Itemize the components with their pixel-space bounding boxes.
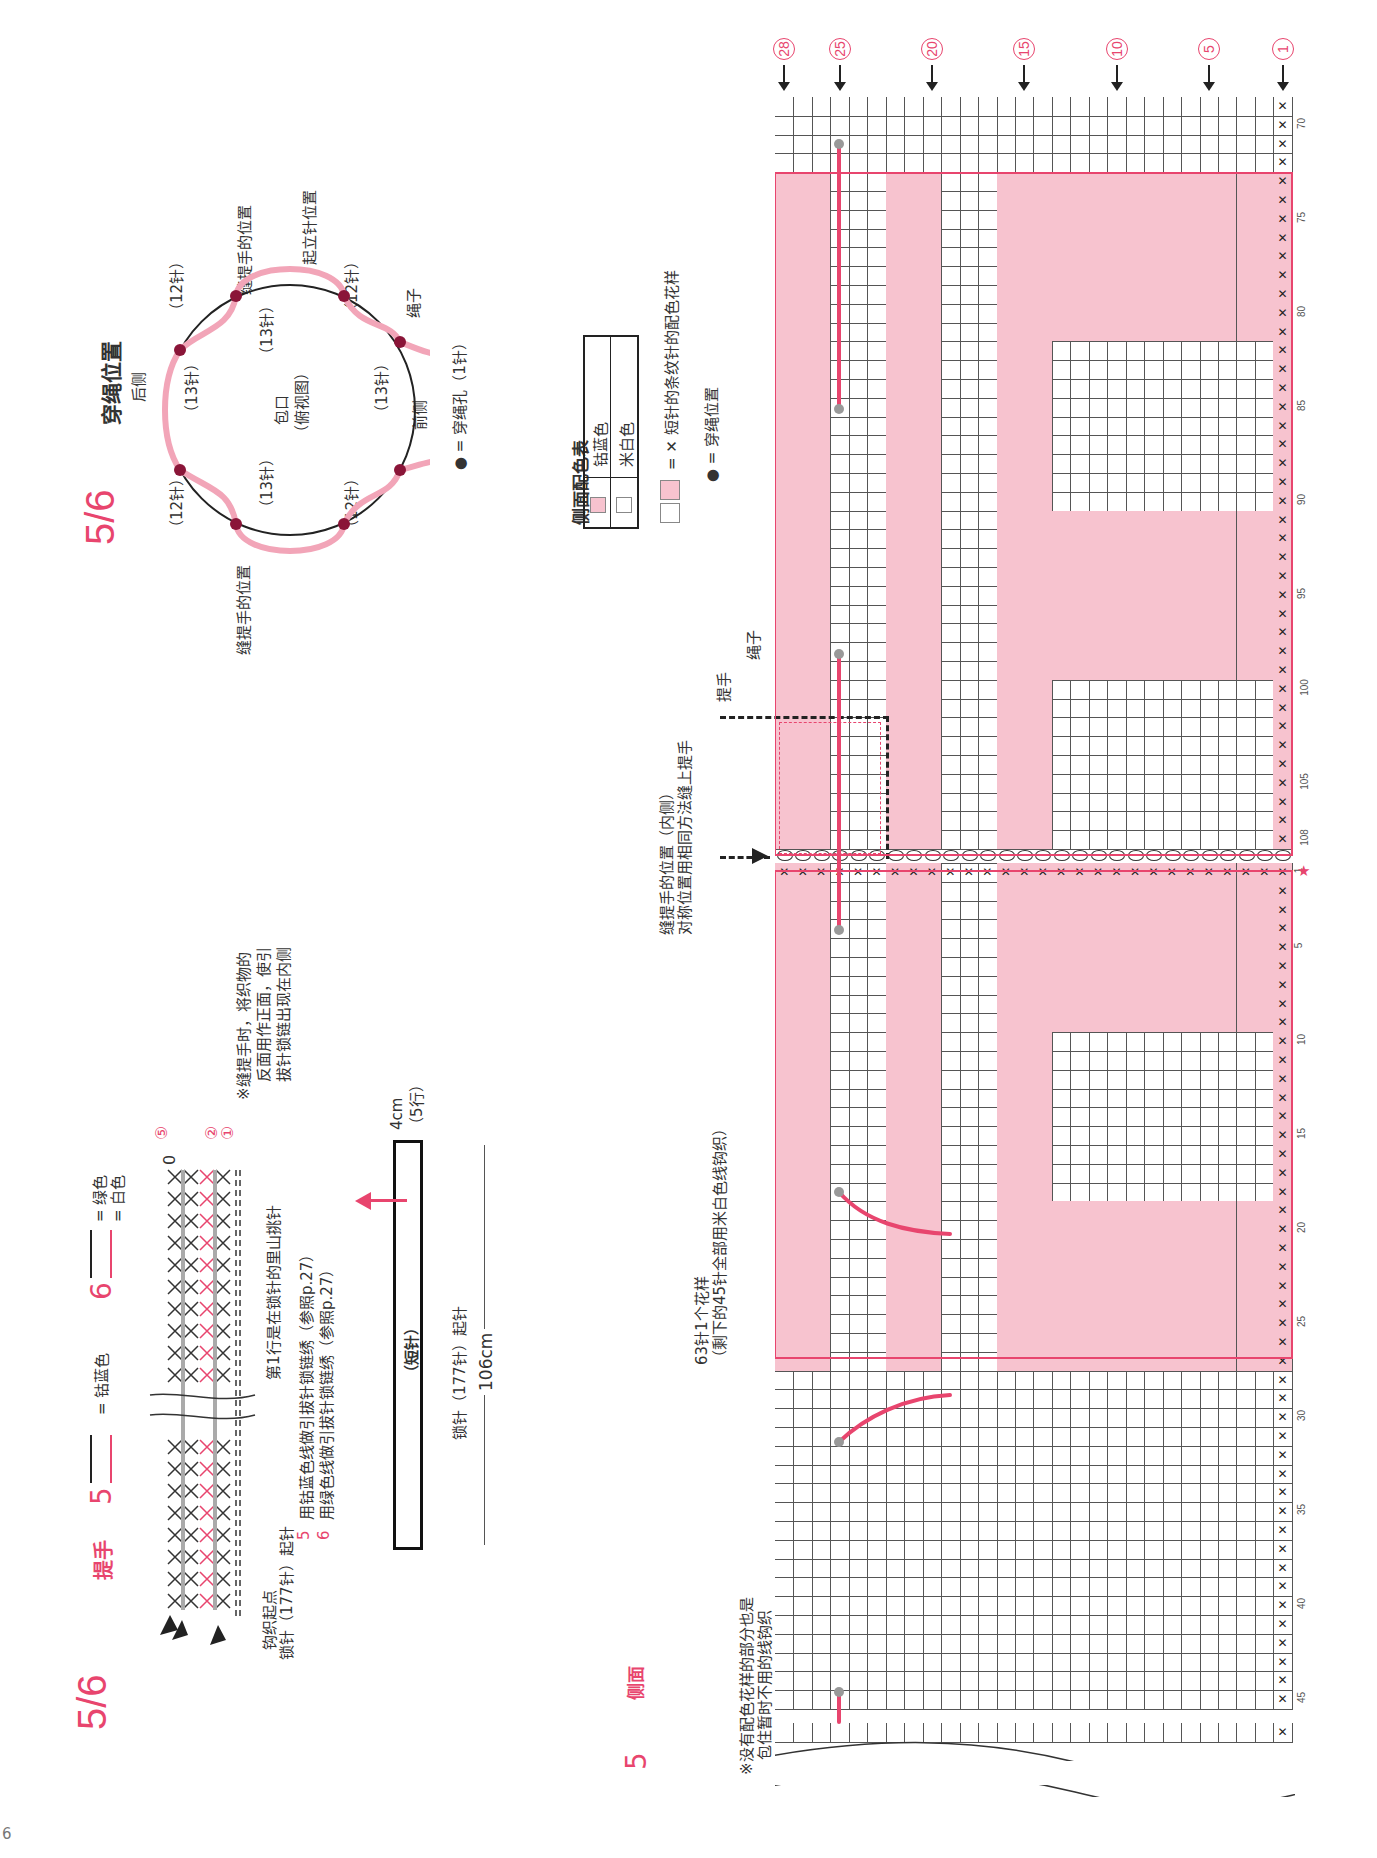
- color6-line-dark: [90, 1230, 92, 1278]
- column-marker: 28: [773, 38, 795, 60]
- row-label: 75: [1296, 212, 1307, 223]
- svg-text:0: 0: [160, 1155, 179, 1165]
- color5-value: = 钴蓝色: [90, 1353, 111, 1415]
- section-title: 提手: [88, 1540, 117, 1580]
- row-marker-5: ⑤: [152, 1126, 171, 1140]
- note5-num: 5: [295, 1530, 313, 1540]
- down-arrow-icon: [1282, 65, 1284, 89]
- row-label: 45: [1296, 1692, 1307, 1703]
- handle-stitch-chart: 0: [140, 1140, 260, 1660]
- hole-legend: ● = 穿绳孔（1针）: [448, 335, 469, 470]
- start-star-icon: ★: [1297, 862, 1310, 880]
- row-label: 35: [1296, 1504, 1307, 1515]
- row-label: 100: [1299, 679, 1310, 696]
- width-label: 106cm: [476, 1329, 496, 1395]
- start-pos: 起立针位置: [298, 190, 319, 265]
- ring-diagram: [130, 260, 430, 580]
- color-swatch-white: [616, 497, 632, 513]
- row-label: 95: [1296, 588, 1307, 599]
- color6-label: 6: [85, 1282, 118, 1300]
- diagram-chain: 锁针（177针）起针: [448, 1306, 469, 1440]
- color-row-1: 钴蓝色: [585, 337, 611, 527]
- column-marker: 15: [1013, 38, 1035, 60]
- note5: 用钴蓝色线做引拔针锁链绣（参照p.27）: [295, 1247, 316, 1520]
- section-number: 5: [620, 1752, 653, 1770]
- down-arrow-icon: [839, 65, 841, 89]
- color6-bottom: = 白色: [106, 1175, 127, 1222]
- direction-arrow: [367, 1199, 407, 1202]
- note6-num: 6: [315, 1530, 333, 1540]
- note6: 用绿色线做引拔针锁链绣（参照p.27）: [315, 1262, 336, 1520]
- color-name-2: 米白色: [615, 422, 636, 467]
- color6-line-pink: [110, 1230, 112, 1278]
- down-arrow-icon: [1023, 65, 1025, 89]
- down-arrow-icon: [931, 65, 933, 89]
- wrap-note-2: 包住暂时不用的线钩织: [753, 1610, 774, 1760]
- rope-overlay: [775, 97, 1295, 1797]
- marker-triangle-icon: [752, 848, 768, 864]
- height-label: 4cm: [388, 1098, 406, 1130]
- section-number: 5/6: [70, 1674, 115, 1730]
- color-swatch-pink: [590, 497, 606, 513]
- legend-pink-swatch: [660, 480, 680, 500]
- down-arrow-icon: [1208, 65, 1210, 89]
- rope-label: 绳子: [742, 630, 763, 660]
- row-label: 30: [1296, 1410, 1307, 1421]
- sewing-note-2: 反面用作正面，使引: [252, 947, 273, 1082]
- row-label: 10: [1296, 1034, 1307, 1045]
- handle-pos-note-2: 对称位置用相同方法缝上提手: [673, 740, 694, 935]
- row-label: 85: [1296, 400, 1307, 411]
- color5-line-dark: [90, 1435, 92, 1483]
- row-label: 15: [1296, 1128, 1307, 1139]
- page-number: 6: [2, 1825, 12, 1843]
- color5-label: 5: [85, 1487, 118, 1505]
- column-marker: 1: [1272, 38, 1294, 60]
- color-table: 钴蓝色 米白色: [583, 335, 639, 529]
- direction-arrow-head-icon: [355, 1192, 371, 1210]
- row-label: 90: [1296, 494, 1307, 505]
- first-row-note: 第1行是在锁针的里山挑针: [262, 1205, 283, 1380]
- row-marker-1: ①: [218, 1126, 237, 1140]
- sewing-note-1: ※缝提手时，将织物的: [232, 952, 253, 1100]
- row-label: 80: [1296, 306, 1307, 317]
- down-arrow-icon: [783, 65, 785, 89]
- section-title: 穿绳位置: [95, 341, 125, 425]
- color-row-2: 米白色: [611, 337, 637, 527]
- row-label: 70: [1296, 118, 1307, 129]
- repeat-note-2: （剩下的45针全部用米白色线钩织）: [708, 1121, 729, 1365]
- row-label: 108: [1299, 829, 1310, 846]
- handle-label: 提手: [712, 672, 733, 702]
- legend-white-swatch: [660, 503, 680, 523]
- column-marker: 20: [921, 38, 943, 60]
- row-label: 20: [1296, 1222, 1307, 1233]
- section-number: 5/6: [78, 489, 123, 545]
- height-rows: （5行）: [405, 1077, 426, 1132]
- column-marker: 5: [1198, 38, 1220, 60]
- row-label: 105: [1299, 773, 1310, 790]
- row-label: 40: [1296, 1598, 1307, 1609]
- color5-line-pink: [110, 1435, 112, 1483]
- section-title: 侧面: [622, 1666, 647, 1700]
- down-arrow-icon: [1116, 65, 1118, 89]
- sewing-note-3: 拔针锁链出现在内侧: [272, 947, 293, 1082]
- diagram-label: （短针）: [400, 1320, 421, 1380]
- stripe-legend: = ✕ 短针的条纹针的配色花样: [660, 270, 681, 470]
- dot-legend: ● = 穿绳位置: [700, 387, 721, 482]
- color-name-1: 钴蓝色: [589, 422, 610, 467]
- column-marker: 10: [1106, 38, 1128, 60]
- chain-label: 锁针（177针）起针: [275, 1526, 296, 1660]
- column-marker: 25: [829, 38, 851, 60]
- row-label: 25: [1296, 1316, 1307, 1327]
